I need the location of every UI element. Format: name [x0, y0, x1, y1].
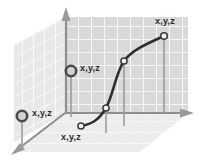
data-point-marker[interactable] — [103, 105, 109, 111]
data-point-marker[interactable] — [161, 33, 168, 40]
figure-root: x,y,z x,y,z x,y,z x,y,z — [0, 0, 199, 161]
label-curve-end: x,y,z — [155, 16, 175, 26]
data-point-marker[interactable] — [78, 123, 84, 129]
ring-icon — [17, 111, 27, 121]
coordinate-space-diagram: x,y,z x,y,z x,y,z x,y,z — [0, 0, 199, 161]
arrow-up-icon — [62, 7, 71, 21]
label-ring-mid: x,y,z — [80, 63, 100, 73]
label-curve-start: x,y,z — [61, 132, 81, 142]
ring-icon — [66, 66, 76, 76]
data-point-marker[interactable] — [121, 58, 127, 64]
label-ring-left: x,y,z — [32, 108, 52, 118]
